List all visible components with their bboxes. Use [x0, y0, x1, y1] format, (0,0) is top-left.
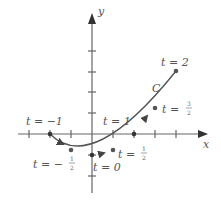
svg-text:1: 1 — [70, 155, 74, 162]
point-t-3half — [153, 106, 158, 111]
label-t-2: t = 2 — [161, 56, 189, 69]
svg-text:t =: t = — [162, 103, 179, 116]
direction-arrow-icon — [142, 116, 147, 122]
direction-arrow-icon — [97, 153, 104, 155]
point-t-half — [111, 148, 116, 153]
label-t-0: t = 0 — [93, 161, 121, 174]
x-axis-arrow-icon — [198, 130, 208, 138]
point-t-2 — [174, 69, 179, 74]
y-axis-label: y — [97, 5, 105, 18]
label-t-1: t = 1 — [103, 115, 131, 128]
point-t-0 — [90, 153, 95, 158]
point-t-1 — [132, 132, 137, 137]
point-t-neg1 — [48, 132, 53, 137]
svg-text:3: 3 — [187, 100, 191, 107]
svg-text:2: 2 — [142, 154, 146, 161]
svg-text:t = −: t = − — [33, 158, 63, 171]
point-t-neg-half — [69, 148, 74, 153]
label-t-neg-half: t = − 1 2 — [33, 155, 75, 171]
label-t-neg1: t = −1 — [26, 115, 63, 128]
svg-text:1: 1 — [142, 145, 146, 152]
label-curve-c: C — [152, 82, 161, 95]
x-axis-label: x — [203, 138, 210, 151]
svg-text:t =: t = — [118, 148, 135, 161]
svg-text:2: 2 — [187, 109, 191, 116]
parametric-curve-diagram: x y t = −1 t = − 1 2 — [0, 0, 221, 208]
y-axis-arrow-icon — [88, 13, 96, 24]
svg-text:2: 2 — [70, 164, 74, 171]
label-t-half: t = 1 2 — [118, 145, 147, 161]
label-t-3half: t = 3 2 — [162, 100, 192, 116]
